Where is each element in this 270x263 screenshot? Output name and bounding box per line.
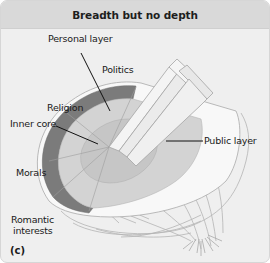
label-personal-layer: Personal layer bbox=[48, 33, 112, 44]
panel-tag: (c) bbox=[10, 245, 25, 256]
label-romantic-interests-line1: Romantic bbox=[11, 214, 54, 225]
label-public-layer: Public layer bbox=[204, 135, 257, 146]
label-politics: Politics bbox=[102, 64, 133, 75]
label-religion: Religion bbox=[47, 102, 83, 113]
label-romantic-interests-line2: interests bbox=[13, 225, 53, 236]
onion-roots bbox=[183, 235, 222, 256]
label-morals: Morals bbox=[16, 167, 46, 178]
diagram-panel: Breadth but no depth bbox=[0, 0, 270, 263]
label-inner-core: Inner core bbox=[10, 118, 56, 129]
